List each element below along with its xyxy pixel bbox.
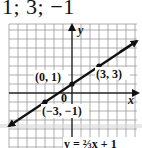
scan-band — [0, 124, 142, 128]
origin-label: 0 — [61, 91, 67, 105]
label-point-neg3-neg1: (−3, −1) — [42, 104, 82, 118]
graph: (0, 1) (3, 3) (−3, −1) 0 y x y = ⅔x + 1 — [0, 0, 142, 148]
x-axis-label: x — [127, 93, 134, 107]
label-point-3-3: (3, 3) — [96, 67, 122, 81]
y-axis-label: y — [76, 23, 84, 37]
label-point-0-1: (0, 1) — [35, 70, 61, 84]
point-0-1 — [69, 81, 74, 86]
equation-label: y = ⅔x + 1 — [64, 137, 117, 148]
